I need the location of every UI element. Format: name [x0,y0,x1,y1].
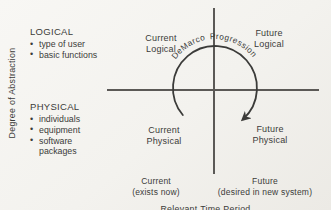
list-item: • basic functions [30,50,105,61]
list-item: • equipment [30,125,105,136]
legend-item-label: equipment [39,125,80,135]
legend-item-label: type of user [39,39,85,49]
demarco-progression-diagram: Degree of Abstraction LOGICAL • type of … [0,0,331,210]
bullet-icon: • [30,114,33,125]
list-item: • individuals [30,114,105,125]
x-axis-label: Relevant Time Period [143,204,268,210]
x-tick-future: Future (desired in new system) [200,176,330,197]
quadrant-label-line: Logical [121,44,201,55]
legend-logical: LOGICAL • type of user • basic functions [30,26,106,61]
x-tick-sublabel: (exists now) [112,187,200,198]
quadrant-future-physical: Future Physical [230,124,310,146]
quadrant-label-line: Logical [229,39,309,50]
list-item: • software packages [30,136,105,158]
x-tick-sublabel: (desired in new system) [200,187,330,198]
legend-logical-title: LOGICAL [30,26,106,37]
quadrant-label-line: Future [229,28,309,39]
quadrant-current-logical: Current Logical [121,33,201,55]
quadrant-current-physical: Current Physical [124,125,204,147]
legend-physical: PHYSICAL • individuals • equipment • sof… [30,101,106,157]
vertical-divider [213,8,215,174]
list-item: • type of user [30,39,105,50]
legend-physical-title: PHYSICAL [30,101,106,112]
legend-item-label: basic functions [39,50,97,60]
x-tick-label: Future [200,176,330,187]
x-tick-label: Current [112,176,200,187]
quadrant-label-line: Current [121,33,201,44]
bullet-icon: • [30,49,33,60]
quadrant-label-line: Physical [230,135,310,146]
quadrant-future-logical: Future Logical [229,28,309,50]
quadrant-label-line: Physical [124,136,204,147]
bullet-icon: • [30,39,33,50]
y-axis-label: Degree of Abstraction [7,13,17,173]
x-tick-current: Current (exists now) [112,176,200,197]
bullet-icon: • [30,135,33,146]
legend-item-label: software packages [39,136,77,157]
horizontal-divider [107,89,319,91]
bullet-icon: • [30,124,33,135]
legend-item-label: individuals [39,114,80,124]
quadrant-label-line: Current [124,125,204,136]
quadrant-label-line: Future [230,124,310,135]
